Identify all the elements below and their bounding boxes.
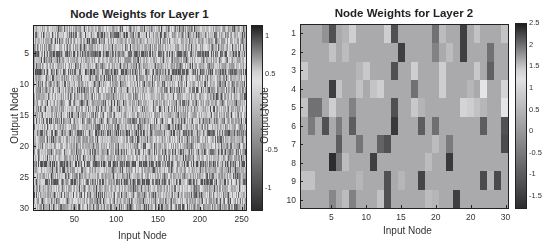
- y-tick-label: 5: [276, 102, 296, 112]
- y-tick-label: 1: [276, 28, 296, 38]
- tick-mark: [33, 53, 36, 54]
- tick-mark: [116, 207, 117, 210]
- tick-mark: [33, 208, 36, 209]
- x-tick-label: 150: [146, 214, 170, 224]
- tick-mark: [436, 205, 437, 208]
- tick-mark: [33, 146, 36, 147]
- colorbar-tick-label: 0.5: [265, 69, 275, 78]
- colorbar-tick-label: 2: [529, 40, 533, 49]
- layer2-title: Node Weights for Layer 2: [300, 7, 508, 19]
- tick-mark: [300, 181, 303, 182]
- x-tick-label: 5: [319, 212, 343, 222]
- colorbar-tick-label: 1: [265, 31, 269, 40]
- x-tick-label: 250: [230, 214, 254, 224]
- x-tick-label: 15: [389, 212, 413, 222]
- colorbar-tick-label: 2.5: [529, 18, 539, 27]
- layer2-xlabel: Input Node: [383, 225, 432, 236]
- tick-mark: [331, 205, 332, 208]
- tick-mark: [300, 70, 303, 71]
- y-tick-label: 30: [9, 203, 29, 213]
- tick-mark: [366, 205, 367, 208]
- layer1-panel: Node Weights for Layer 1 51015202530 501…: [0, 0, 275, 250]
- colorbar-tick-label: 1: [529, 83, 533, 92]
- x-tick-label: 200: [188, 214, 212, 224]
- tick-mark: [300, 126, 303, 127]
- y-tick-label: 4: [276, 84, 296, 94]
- colorbar-tick-label: -1: [529, 169, 536, 178]
- layer2-panel: Node Weights for Layer 2 12345678910 510…: [275, 0, 549, 250]
- tick-mark: [300, 144, 303, 145]
- layer2-colorbar: [515, 23, 527, 209]
- tick-mark: [300, 163, 303, 164]
- layer1-ylabel: Output Node: [9, 84, 20, 148]
- tick-mark: [33, 115, 36, 116]
- layer1-heatmap: [33, 25, 247, 211]
- colorbar-tick-label: -0.5: [529, 148, 542, 157]
- y-tick-label: 5: [9, 48, 29, 58]
- x-tick-label: 10: [354, 212, 378, 222]
- y-tick-label: 6: [276, 121, 296, 131]
- tick-mark: [300, 52, 303, 53]
- tick-mark: [158, 207, 159, 210]
- tick-mark: [471, 205, 472, 208]
- tick-mark: [242, 207, 243, 210]
- colorbar-tick-label: -1.5: [529, 191, 542, 200]
- tick-mark: [74, 207, 75, 210]
- y-tick-label: 3: [276, 65, 296, 75]
- y-tick-label: 25: [9, 172, 29, 182]
- tick-mark: [200, 207, 201, 210]
- y-tick-label: 10: [276, 195, 296, 205]
- x-tick-label: 50: [62, 214, 86, 224]
- tick-mark: [300, 107, 303, 108]
- tick-mark: [300, 33, 303, 34]
- x-tick-label: 20: [459, 212, 483, 222]
- tick-mark: [33, 84, 36, 85]
- y-tick-label: 8: [276, 158, 296, 168]
- layer2-heatmap: [300, 24, 509, 209]
- x-tick-label: 100: [104, 214, 128, 224]
- tick-mark: [401, 205, 402, 208]
- x-tick-label: 30: [494, 212, 518, 222]
- layer2-ylabel: Output Node: [259, 84, 270, 148]
- colorbar-tick-label: 0.5: [529, 105, 539, 114]
- y-tick-label: 9: [276, 176, 296, 186]
- y-tick-label: 2: [276, 47, 296, 57]
- layer1-xlabel: Input Node: [118, 230, 167, 241]
- layer1-title: Node Weights for Layer 1: [33, 8, 246, 20]
- tick-mark: [33, 177, 36, 178]
- tick-mark: [300, 89, 303, 90]
- colorbar-tick-label: 1.5: [529, 61, 539, 70]
- colorbar-tick-label: -1: [265, 183, 272, 192]
- tick-mark: [300, 200, 303, 201]
- colorbar-tick-label: 0: [529, 126, 533, 135]
- x-tick-label: 20: [424, 212, 448, 222]
- y-tick-label: 7: [276, 139, 296, 149]
- tick-mark: [506, 205, 507, 208]
